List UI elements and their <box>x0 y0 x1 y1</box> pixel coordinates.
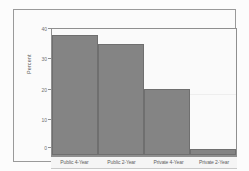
chart-screenshot: Percent 40 30 20 10 0 Public 4-Year Publ… <box>0 0 249 171</box>
y-tick-label-40: 40 <box>35 26 47 32</box>
bar-public-4-year <box>52 35 98 155</box>
x-axis-line <box>51 156 237 157</box>
x-tick-label-public-2-year: Public 2-Year <box>98 159 145 165</box>
x-tick-label-private-2-year: Private 2-Year <box>191 159 237 165</box>
x-tick-label-public-4-year: Public 4-Year <box>51 159 98 165</box>
y-tick-label-0: 0 <box>35 145 47 151</box>
bar-public-2-year <box>98 44 144 155</box>
y-tick-label-10: 10 <box>35 117 47 123</box>
x-tick-label-private-4-year: Private 4-Year <box>145 159 192 165</box>
figure-frame: Percent 40 30 20 10 0 Public 4-Year Publ… <box>13 9 236 162</box>
plot-panel <box>51 28 237 156</box>
plot-area <box>52 29 236 155</box>
y-axis-title: Percent <box>26 54 32 74</box>
y-tick-label-20: 20 <box>35 87 47 93</box>
bar-private-2-year <box>190 149 236 155</box>
y-tick-label-30: 30 <box>35 56 47 62</box>
bar-private-4-year <box>144 89 190 155</box>
